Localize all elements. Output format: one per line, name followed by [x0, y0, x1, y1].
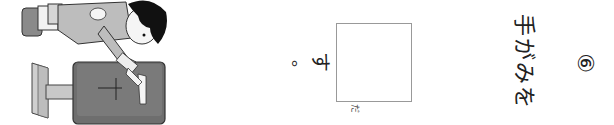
- question-text-after: す: [310, 52, 330, 72]
- answer-furigana: だ: [350, 104, 359, 113]
- question-period: 。: [290, 60, 308, 78]
- illustration-child-posting-letter: [0, 0, 200, 125]
- answer-box[interactable]: [336, 23, 412, 102]
- question-number: ⑥: [566, 48, 596, 78]
- question-text-before: 手がみを: [513, 14, 535, 110]
